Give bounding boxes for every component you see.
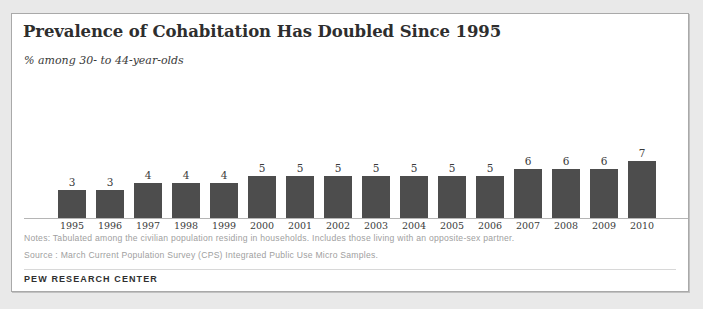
chart-subtitle: % among 30- to 44-year-olds <box>24 54 184 67</box>
bar-value-label: 5 <box>319 162 357 174</box>
bar-column: 4 <box>167 114 205 219</box>
x-axis-tick-label: 2005 <box>433 220 471 231</box>
bar-column: 6 <box>585 114 623 219</box>
bar <box>96 190 124 218</box>
bar-column: 5 <box>243 114 281 219</box>
bar-value-label: 5 <box>281 162 319 174</box>
bar-column: 5 <box>471 114 509 219</box>
x-axis-tick-label: 1995 <box>53 220 91 231</box>
bar-value-label: 6 <box>547 155 585 167</box>
bar <box>628 161 656 218</box>
x-axis-tick-label: 2007 <box>509 220 547 231</box>
bar-value-label: 5 <box>433 162 471 174</box>
bar-column: 4 <box>205 114 243 219</box>
x-axis-tick-label: 2001 <box>281 220 319 231</box>
x-axis-tick-label: 1999 <box>205 220 243 231</box>
footer-divider <box>24 269 676 270</box>
chart-notes: Notes: Tabulated among the civilian popu… <box>24 233 514 243</box>
bar-value-label: 5 <box>395 162 433 174</box>
bar <box>552 169 580 218</box>
chart-card: Prevalence of Cohabitation Has Doubled S… <box>11 13 689 292</box>
x-axis-tick-label: 2010 <box>623 220 661 231</box>
bar-column: 7 <box>623 114 661 219</box>
x-axis-tick-label: 1998 <box>167 220 205 231</box>
bar <box>134 183 162 218</box>
x-axis-tick-label: 2003 <box>357 220 395 231</box>
page-title: Prevalence of Cohabitation Has Doubled S… <box>23 22 501 41</box>
bar-column: 5 <box>281 114 319 219</box>
bar-value-label: 4 <box>167 169 205 181</box>
bar-column: 4 <box>129 114 167 219</box>
x-axis-tick-label: 1996 <box>91 220 129 231</box>
bar-value-label: 3 <box>91 176 129 188</box>
bar <box>400 176 428 218</box>
bar-value-label: 6 <box>509 155 547 167</box>
bar-value-label: 5 <box>357 162 395 174</box>
bar-chart-plot-area: 3344455555556667 <box>24 114 680 219</box>
x-axis-tick-label: 2006 <box>471 220 509 231</box>
bar-column: 3 <box>91 114 129 219</box>
bar-column: 5 <box>319 114 357 219</box>
pew-research-center-footer: PEW RESEARCH CENTER <box>24 274 158 284</box>
bar <box>58 190 86 218</box>
bar <box>324 176 352 218</box>
x-axis-tick-label: 2000 <box>243 220 281 231</box>
bar-value-label: 3 <box>53 176 91 188</box>
bar <box>248 176 276 218</box>
bar-value-label: 6 <box>585 155 623 167</box>
bar-value-label: 7 <box>623 147 661 159</box>
chart-source: Source : March Current Population Survey… <box>24 250 378 260</box>
bar-column: 6 <box>547 114 585 219</box>
x-axis-tick-label: 2009 <box>585 220 623 231</box>
bar <box>286 176 314 218</box>
bar <box>590 169 618 218</box>
bar-column: 5 <box>395 114 433 219</box>
bar-value-label: 4 <box>205 169 243 181</box>
bar <box>476 176 504 218</box>
x-axis-tick-label: 2008 <box>547 220 585 231</box>
bar-value-label: 4 <box>129 169 167 181</box>
bar-column: 5 <box>433 114 471 219</box>
x-axis-tick-label: 1997 <box>129 220 167 231</box>
bar <box>172 183 200 218</box>
bar-value-label: 5 <box>471 162 509 174</box>
bar <box>210 183 238 218</box>
bar <box>362 176 390 218</box>
bar-value-label: 5 <box>243 162 281 174</box>
x-axis-tick-label: 2004 <box>395 220 433 231</box>
bar-column: 5 <box>357 114 395 219</box>
x-axis-baseline <box>24 218 688 219</box>
bar-column: 3 <box>53 114 91 219</box>
bar <box>438 176 466 218</box>
bar <box>514 169 542 218</box>
bar-column: 6 <box>509 114 547 219</box>
x-axis-tick-label: 2002 <box>319 220 357 231</box>
